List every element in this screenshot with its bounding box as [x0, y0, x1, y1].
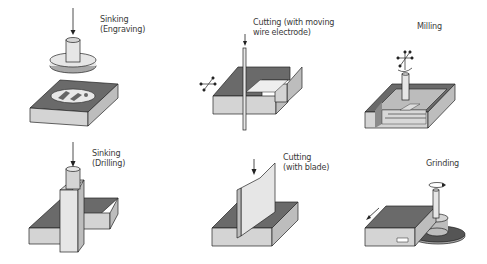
milling-illustration	[330, 0, 487, 132]
down-arrow-icon	[71, 8, 76, 35]
cutting-wire-illustration	[160, 0, 330, 132]
sinking-drilling-illustration	[0, 132, 160, 264]
panel-cutting-blade: Cutting (with blade)	[160, 132, 330, 264]
panel-sinking-engraving: Sinking (Engraving)	[0, 0, 160, 132]
panel-cutting-wire: Cutting (with moving wire electrode)	[160, 0, 330, 132]
panel-sinking-drilling: Sinking (Drilling)	[0, 132, 160, 264]
down-arrow-icon	[243, 34, 247, 46]
down-arrow-icon	[252, 159, 257, 175]
rotation-arrow-icon	[429, 183, 446, 188]
motion-arrows-icon	[397, 51, 413, 70]
cutting-blade-illustration	[160, 132, 330, 264]
panel-milling: Milling	[330, 0, 487, 132]
down-arrow-icon	[71, 142, 76, 167]
motion-arrows-icon	[200, 77, 216, 91]
panel-grinding: Grinding	[330, 132, 487, 264]
grinding-illustration	[330, 132, 487, 264]
sinking-engraving-illustration	[0, 0, 160, 132]
